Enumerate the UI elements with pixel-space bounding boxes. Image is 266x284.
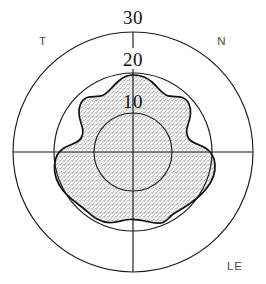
visual-field-chart: 30 20 10 T N LE xyxy=(0,0,266,284)
scale-label-10-group: 10 xyxy=(123,91,143,112)
perimetry-plot: 30 20 10 T N LE xyxy=(0,0,266,284)
label-eye-left: LE xyxy=(227,260,243,272)
scale-label-30: 30 xyxy=(123,7,143,28)
label-temporal: T xyxy=(39,35,47,47)
label-nasal: N xyxy=(217,35,226,47)
scale-label-30-group: 30 xyxy=(116,6,150,28)
scale-label-20-group: 20 xyxy=(117,48,149,70)
scale-label-10: 10 xyxy=(123,91,143,112)
scale-label-20: 20 xyxy=(123,49,143,70)
